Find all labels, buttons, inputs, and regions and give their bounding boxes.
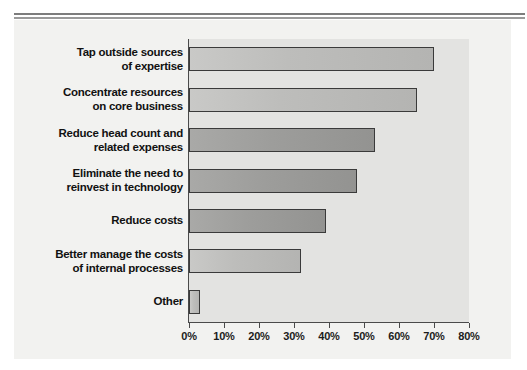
x-tick: [399, 323, 400, 328]
category-label-line: Eliminate the need to: [13, 167, 183, 181]
chart-figure: 0%10%20%30%40%50%60%70%80% Tap outside s…: [0, 0, 527, 370]
x-tick-label: 20%: [239, 330, 279, 342]
category-label: Reduce head count andrelated expenses: [13, 127, 183, 154]
category-label-line: Better manage the costs: [13, 248, 183, 262]
category-label: Eliminate the need toreinvest in technol…: [13, 167, 183, 194]
bar: [189, 249, 301, 273]
category-label-line: Reduce head count and: [13, 127, 183, 141]
top-rule-lower: [14, 17, 525, 19]
category-label: Concentrate resourceson core business: [13, 86, 183, 113]
bar: [189, 88, 417, 112]
bar: [189, 290, 200, 314]
category-label: Better manage the costsof internal proce…: [13, 248, 183, 275]
category-label-line: reinvest in technology: [13, 181, 183, 195]
category-label-line: Tap outside sources: [13, 46, 183, 60]
x-tick: [259, 323, 260, 328]
category-label-line: of internal processes: [13, 262, 183, 276]
x-tick-label: 50%: [344, 330, 384, 342]
x-tick-label: 80%: [449, 330, 489, 342]
x-tick: [364, 323, 365, 328]
category-label-line: on core business: [13, 100, 183, 114]
category-label-line: Other: [13, 295, 183, 309]
top-rule-upper: [14, 13, 525, 15]
x-tick-label: 60%: [379, 330, 419, 342]
category-label-line: Concentrate resources: [13, 86, 183, 100]
x-tick: [434, 323, 435, 328]
x-tick: [294, 323, 295, 328]
bar: [189, 128, 375, 152]
x-tick: [189, 323, 190, 328]
x-tick: [224, 323, 225, 328]
x-tick-label: 30%: [274, 330, 314, 342]
bar: [189, 169, 357, 193]
category-label-line: related expenses: [13, 141, 183, 155]
x-tick-label: 40%: [309, 330, 349, 342]
category-label-line: of expertise: [13, 60, 183, 74]
category-label: Reduce costs: [13, 214, 183, 228]
category-label-line: Reduce costs: [13, 214, 183, 228]
category-label: Tap outside sourcesof expertise: [13, 46, 183, 73]
bar: [189, 47, 434, 71]
x-tick: [329, 323, 330, 328]
x-tick-label: 0%: [169, 330, 209, 342]
x-tick-label: 70%: [414, 330, 454, 342]
category-label: Other: [13, 295, 183, 309]
x-tick-label: 10%: [204, 330, 244, 342]
bar: [189, 209, 326, 233]
x-tick: [469, 323, 470, 328]
